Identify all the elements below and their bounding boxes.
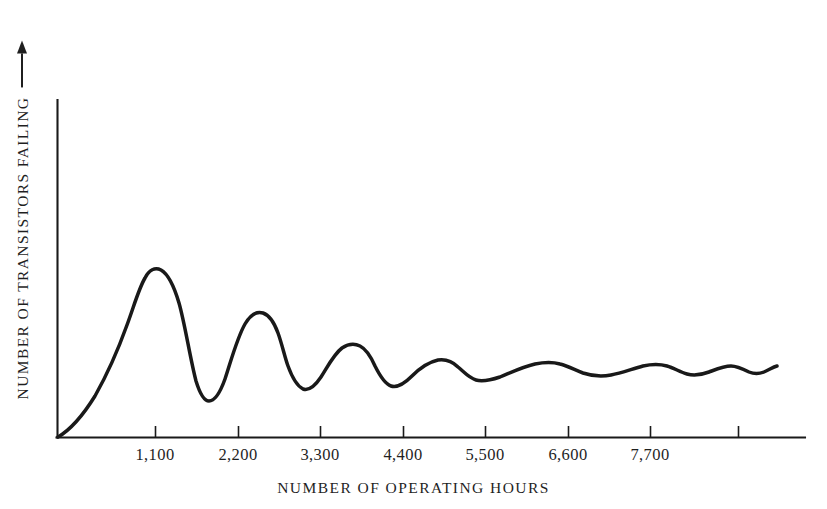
x-tick-label: 6,600 — [548, 445, 587, 464]
chart-figure: 1,100 2,200 3,300 4,400 5,500 6,600 7,70… — [0, 0, 827, 509]
x-tick-label: 7,700 — [630, 445, 669, 464]
chart-plot-svg: 1,100 2,200 3,300 4,400 5,500 6,600 7,70… — [0, 0, 827, 509]
x-tick-label: 4,400 — [383, 445, 422, 464]
x-axis-title: NUMBER OF OPERATING HOURS — [0, 479, 827, 497]
x-tick-label: 2,200 — [218, 445, 257, 464]
x-axis-ticks — [156, 426, 739, 437]
y-axis-title-text: NUMBER OF TRANSISTORS FAILING — [14, 97, 32, 400]
up-arrow-icon-shaft — [21, 54, 23, 88]
x-tick-label: 3,300 — [300, 445, 339, 464]
x-tick-label: 1,100 — [135, 445, 174, 464]
x-axis-tick-labels: 1,100 2,200 3,300 4,400 5,500 6,600 7,70… — [135, 445, 669, 464]
up-arrow-icon — [17, 41, 27, 54]
x-tick-label: 5,500 — [465, 445, 504, 464]
failure-rate-curve — [58, 269, 777, 437]
y-axis-title: NUMBER OF TRANSISTORS FAILING — [0, 0, 46, 440]
